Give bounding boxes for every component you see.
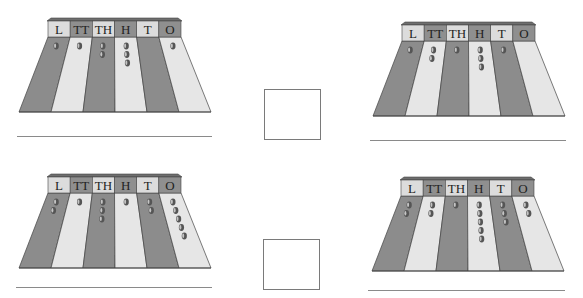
abacus-top-left: LTTTHHTO [19,18,212,115]
bead-icon [429,55,434,62]
place-label: TT [73,22,89,37]
place-label: TT [426,181,442,196]
place-label: H [475,26,484,41]
place-label: H [474,181,483,196]
bead-icon [173,207,178,214]
bead-icon [51,207,56,214]
bead-icon [477,210,482,217]
bead-icon [454,47,459,54]
bead-icon [428,210,433,217]
place-label: L [408,181,416,196]
bead-icon [99,216,104,223]
bead-icon [502,210,507,217]
bead-icon [176,216,181,223]
bead-icon [170,43,175,50]
place-label: L [409,26,417,41]
answer-line[interactable] [370,140,566,141]
abacus-bottom-right: LTTTHHTO [372,177,565,274]
bead-icon [54,43,59,50]
place-label: H [121,22,130,37]
bead-icon [100,43,105,50]
place-label: T [144,178,152,193]
place-label: TT [73,178,89,193]
bead-icon [77,199,82,206]
place-label: T [497,181,505,196]
bead-icon [54,199,59,206]
place-label: T [144,22,152,37]
answer-line[interactable] [368,290,565,291]
place-label: O [165,22,174,37]
bead-icon [478,219,483,226]
bead-icon [124,51,129,58]
bead-icon [77,43,82,50]
bead-icon [500,202,505,209]
bead-icon [170,199,175,206]
answer-line[interactable] [17,136,212,137]
bead-icon [431,47,436,54]
place-label: L [55,22,63,37]
bead-icon [503,219,508,226]
bead-icon [478,55,483,62]
bead-icon [100,199,105,206]
bead-icon [478,227,483,234]
answer-line[interactable] [16,287,212,288]
bead-icon [100,207,105,214]
place-label: TT [427,26,443,41]
place-label: TH [95,22,112,37]
bead-icon [523,202,528,209]
bead-icon [179,224,184,231]
bead-icon [453,202,458,209]
bead-icon [526,210,531,217]
bead-icon [408,47,413,54]
place-label: O [518,181,527,196]
bead-icon [430,202,435,209]
answer-box[interactable] [263,239,320,290]
bead-icon [478,47,483,54]
place-label: T [498,26,506,41]
bead-icon [100,51,105,58]
bead-icon [404,210,409,217]
bead-icon [182,233,187,240]
place-label: TH [449,26,466,41]
bead-icon [477,202,482,209]
place-label: L [55,178,63,193]
bead-icon [124,43,129,50]
bead-icon [407,202,412,209]
place-label: H [121,178,130,193]
bead-icon [149,207,154,214]
answer-box[interactable] [264,89,321,140]
abacus-bottom-left: LTTTHHTO [19,174,212,271]
bead-icon [124,199,129,206]
abacus-top-right: LTTTHHTO [373,22,566,119]
bead-icon [147,199,152,206]
place-label: O [519,26,528,41]
bead-icon [125,60,130,67]
bead-icon [479,236,484,243]
place-label: O [165,178,174,193]
place-label: TH [95,178,112,193]
bead-icon [501,47,506,54]
bead-icon [479,64,484,71]
place-label: TH [448,181,465,196]
